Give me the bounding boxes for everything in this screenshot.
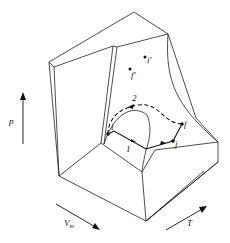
label-p: p <box>8 116 14 126</box>
state-points <box>106 56 184 143</box>
process-path-1 <box>108 124 182 149</box>
vm-arrow-icon <box>92 223 100 230</box>
label-path-1: 1 <box>126 144 131 154</box>
label-t: T <box>187 218 193 228</box>
p-arrow-icon <box>20 92 26 100</box>
t-arrow-icon <box>199 206 207 213</box>
surface-outline <box>49 12 218 221</box>
label-j: j <box>174 139 178 149</box>
label-path-2: 2 <box>132 93 137 103</box>
point-i <box>106 132 110 136</box>
label-f-prime: f' <box>131 70 137 80</box>
p-axis: p <box>8 92 26 144</box>
label-i-prime: i' <box>147 55 153 65</box>
process-path-2 <box>108 104 182 134</box>
label-f: f <box>184 119 188 129</box>
label-vm: Vm <box>64 218 75 229</box>
t-axis: T <box>166 206 207 230</box>
vm-axis: Vm <box>56 204 100 230</box>
pvt-surface-diagram: i f j f' i' 1 2 p Vm T <box>0 0 230 243</box>
